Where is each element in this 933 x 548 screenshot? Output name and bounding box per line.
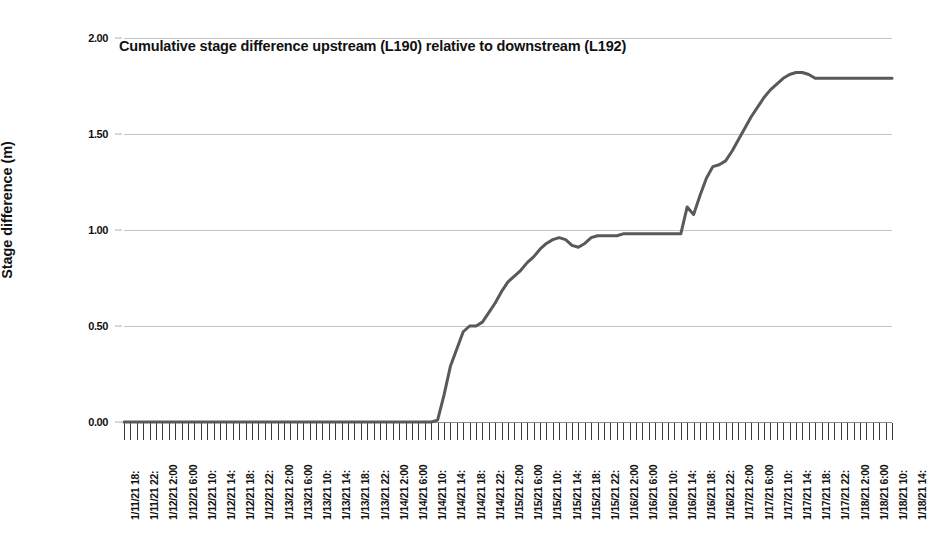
x-tick-mark <box>732 423 733 440</box>
x-tick-mark <box>246 423 247 440</box>
x-tick-mark <box>879 423 880 440</box>
x-tick-mark <box>649 423 650 440</box>
x-tick-mark <box>540 423 541 440</box>
x-tick-mark <box>841 423 842 440</box>
x-tick-mark <box>534 423 535 440</box>
chart-title: Cumulative stage difference upstream (L1… <box>119 38 626 54</box>
x-tick-mark <box>521 423 522 440</box>
x-tick-mark <box>470 423 471 440</box>
x-tick-mark <box>834 423 835 440</box>
y-tick-mark <box>115 422 122 423</box>
x-tick-mark <box>194 423 195 440</box>
x-tick-mark <box>425 423 426 440</box>
x-tick-mark <box>348 423 349 440</box>
x-tick-mark <box>610 423 611 440</box>
x-tick-mark <box>828 423 829 440</box>
x-tick-mark <box>297 423 298 440</box>
x-tick-mark <box>553 423 554 440</box>
x-tick-mark <box>598 423 599 440</box>
x-tick-label: 1/17/21 14: <box>801 470 813 520</box>
x-tick-mark <box>418 423 419 440</box>
x-tick-mark <box>508 423 509 440</box>
x-tick-mark <box>546 423 547 440</box>
x-tick-label: 1/14/21 10: <box>436 470 448 520</box>
x-tick-mark <box>278 423 279 440</box>
x-tick-label: 1/16/21 6:00 <box>647 465 659 520</box>
x-tick-mark <box>796 423 797 440</box>
x-tick-label: 1/13/21 18: <box>359 470 371 520</box>
x-tick-label: 1/17/21 10: <box>782 470 794 520</box>
x-tick-mark <box>706 423 707 440</box>
x-tick-mark <box>700 423 701 440</box>
x-tick-mark <box>873 423 874 440</box>
x-tick-mark <box>271 423 272 440</box>
x-tick-mark <box>150 423 151 440</box>
x-tick-mark <box>367 423 368 440</box>
x-tick-mark <box>233 423 234 440</box>
x-tick-label: 1/14/21 18: <box>475 470 487 520</box>
series-layer <box>0 0 933 548</box>
x-tick-mark <box>220 423 221 440</box>
x-tick-mark <box>393 423 394 440</box>
x-tick-mark <box>815 423 816 440</box>
x-tick-mark <box>662 423 663 440</box>
x-tick-mark <box>169 423 170 440</box>
x-tick-mark <box>431 423 432 440</box>
x-tick-mark <box>335 423 336 440</box>
x-tick-mark <box>386 423 387 440</box>
x-tick-mark <box>636 423 637 440</box>
x-tick-label: 1/11/21 22: <box>148 471 160 520</box>
x-tick-label: 1/17/21 2:00 <box>743 465 755 520</box>
x-tick-mark <box>822 423 823 440</box>
x-tick-mark <box>329 423 330 440</box>
x-tick-mark <box>655 423 656 440</box>
x-tick-mark <box>374 423 375 440</box>
x-tick-mark <box>207 423 208 440</box>
x-tick-mark <box>790 423 791 440</box>
x-tick-mark <box>175 423 176 440</box>
x-tick-label: 1/17/21 6:00 <box>763 465 775 520</box>
x-tick-mark <box>738 423 739 440</box>
x-tick-mark <box>156 423 157 440</box>
x-tick-mark <box>764 423 765 440</box>
x-tick-label: 1/15/21 14: <box>571 470 583 520</box>
x-tick-mark <box>751 423 752 440</box>
x-tick-label: 1/18/21 2:00 <box>859 465 871 520</box>
x-tick-mark <box>201 423 202 440</box>
x-tick-mark <box>412 423 413 440</box>
x-tick-label: 1/14/21 22: <box>494 470 506 520</box>
x-tick-mark <box>124 423 125 440</box>
x-tick-mark <box>495 423 496 440</box>
y-axis-title-label: Stage difference (m) <box>0 141 15 278</box>
x-tick-mark <box>713 423 714 440</box>
x-tick-mark <box>303 423 304 440</box>
x-tick-mark <box>726 423 727 440</box>
x-tick-mark <box>444 423 445 440</box>
x-tick-mark <box>566 423 567 440</box>
x-tick-mark <box>310 423 311 440</box>
x-tick-mark <box>162 423 163 440</box>
x-tick-mark <box>463 423 464 440</box>
x-tick-label: 1/17/21 18: <box>820 470 832 520</box>
gridline <box>124 326 892 327</box>
x-tick-label: 1/12/21 18: <box>244 470 256 520</box>
x-tick-label: 1/15/21 2:00 <box>513 465 525 520</box>
x-tick-mark <box>770 423 771 440</box>
x-tick-label: 1/18/21 10: <box>897 470 909 520</box>
x-tick-label: 1/12/21 14: <box>225 470 237 520</box>
x-tick-mark <box>284 423 285 440</box>
x-tick-mark <box>809 423 810 440</box>
x-tick-mark <box>694 423 695 440</box>
x-tick-mark <box>214 423 215 440</box>
y-tick-label: 1.50 <box>66 128 108 140</box>
x-tick-mark <box>482 423 483 440</box>
x-tick-mark <box>322 423 323 440</box>
x-tick-mark <box>783 423 784 440</box>
x-tick-mark <box>130 423 131 440</box>
x-tick-mark <box>182 423 183 440</box>
x-tick-mark <box>674 423 675 440</box>
x-tick-mark <box>591 423 592 440</box>
y-tick-mark <box>115 326 122 327</box>
x-tick-label: 1/13/21 2:00 <box>283 465 295 520</box>
x-tick-label: 1/16/21 18: <box>705 470 717 520</box>
